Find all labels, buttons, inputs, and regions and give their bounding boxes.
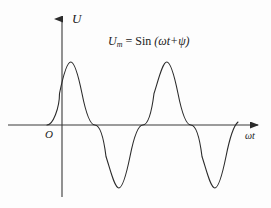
equation-annotation: Um=Sin (ωt+ψ)	[108, 35, 190, 49]
equation-operator: =	[125, 34, 132, 48]
x-axis-label: ωt	[245, 131, 255, 141]
equation-function-name: Sin	[135, 34, 151, 48]
equation-lhs-subscript: m	[117, 40, 123, 49]
equation-argument: (ωt+ψ)	[154, 34, 189, 48]
equation-lhs-variable: U	[108, 34, 117, 48]
plot-canvas	[0, 0, 271, 208]
waveform-figure: U O ωt Um=Sin (ωt+ψ)	[0, 0, 271, 208]
origin-label: O	[45, 129, 53, 140]
y-axis-label: U	[72, 12, 81, 25]
